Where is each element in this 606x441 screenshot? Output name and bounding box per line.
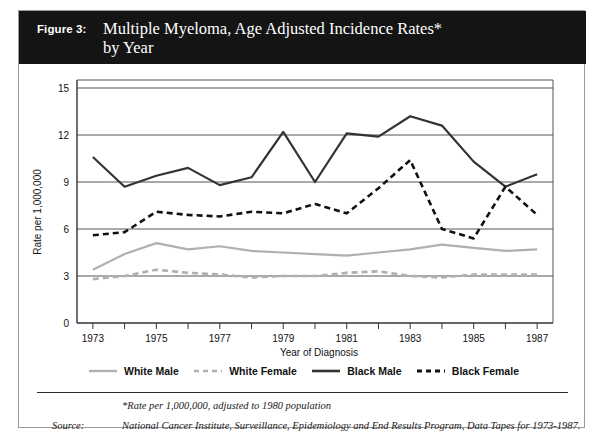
y-tick-label: 15: [58, 83, 70, 94]
source-citation: National Cancer Institute, Surveillance,…: [122, 420, 580, 431]
legend-item-black-male: Black Male: [312, 365, 401, 377]
y-axis-title: Rate per 1,000,000: [32, 169, 43, 255]
legend-item-white-female: White Female: [194, 365, 297, 377]
legend-label-white-male: White Male: [124, 365, 179, 377]
series-line-white-male: [93, 243, 537, 270]
x-tick-label: 1979: [272, 333, 295, 344]
y-tick-label: 6: [63, 224, 69, 235]
legend-label-white-female: White Female: [229, 365, 297, 377]
y-tick-label: 12: [58, 130, 70, 141]
figure-title: Multiple Myeloma, Age Adjusted Incidence…: [103, 19, 563, 57]
y-axis: 03691215: [58, 80, 553, 329]
figure-title-bar: Figure 3: Multiple Myeloma, Age Adjusted…: [19, 11, 586, 64]
x-axis: 19731975197719791981198319851987: [77, 323, 553, 344]
chart-series-lines: [93, 116, 537, 279]
chart-legend: White Male White Female Black Male Black…: [89, 361, 519, 381]
source-label: Source:: [52, 420, 84, 431]
x-tick-label: 1985: [463, 333, 486, 344]
legend-swatch-black-female: [417, 366, 445, 376]
legend-item-white-male: White Male: [89, 365, 179, 377]
y-tick-label: 3: [63, 271, 69, 282]
x-tick-label: 1983: [399, 333, 422, 344]
legend-swatch-white-female: [194, 366, 222, 376]
x-tick-label: 1987: [526, 333, 549, 344]
footnote-rate-note: *Rate per 1,000,000, adjusted to 1980 po…: [122, 400, 331, 411]
legend-swatch-black-male: [312, 366, 340, 376]
legend-label-black-male: Black Male: [347, 365, 401, 377]
y-tick-label: 0: [63, 318, 69, 329]
chart-plot-area: 03691215 1973197519771979198119831985198…: [19, 64, 586, 364]
x-tick-label: 1981: [336, 333, 359, 344]
footer-divider: [37, 392, 568, 393]
x-tick-label: 1973: [82, 333, 105, 344]
legend-label-black-female: Black Female: [452, 365, 519, 377]
x-axis-title: Year of Diagnosis: [280, 347, 358, 358]
series-line-black-male: [93, 116, 537, 187]
line-chart-svg: 03691215 1973197519771979198119831985198…: [19, 64, 586, 364]
series-line-white-female: [93, 270, 537, 279]
series-line-black-female: [93, 160, 537, 238]
x-tick-label: 1975: [145, 333, 168, 344]
figure-container: Figure 3: Multiple Myeloma, Age Adjusted…: [18, 10, 585, 428]
legend-swatch-white-male: [89, 366, 117, 376]
y-tick-label: 9: [63, 177, 69, 188]
x-tick-label: 1977: [209, 333, 232, 344]
legend-item-black-female: Black Female: [417, 365, 519, 377]
figure-number-label: Figure 3:: [37, 23, 86, 35]
